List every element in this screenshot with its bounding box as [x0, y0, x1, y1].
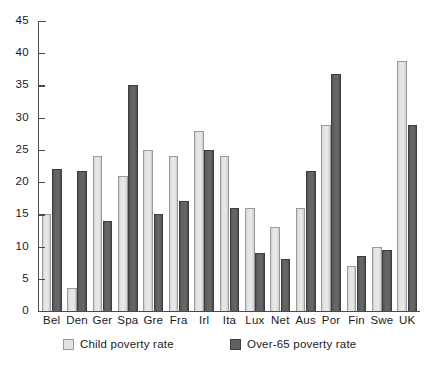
bar-over65-poverty: [179, 201, 189, 311]
x-tick-label-gre: Gre: [143, 314, 163, 327]
bar-group: [372, 21, 392, 311]
y-tick-label: 25: [16, 144, 29, 156]
bar-over65-poverty: [128, 85, 138, 311]
x-tick-label-fra: Fra: [170, 314, 188, 327]
bar-over65-poverty: [204, 150, 214, 311]
bar-group: [143, 21, 163, 311]
bar-group: [67, 21, 87, 311]
bar-child-poverty: [245, 208, 255, 311]
y-tick-mark: [39, 150, 45, 151]
bar-over65-poverty: [281, 259, 291, 311]
bar-child-poverty: [321, 125, 331, 311]
x-tick-label-irl: Irl: [199, 314, 209, 327]
y-tick-label: 15: [16, 209, 29, 221]
y-tick-mark: [39, 85, 45, 86]
y-tick-label: 45: [16, 15, 29, 27]
bar-child-poverty: [296, 208, 306, 311]
bar-over65-poverty: [52, 169, 62, 311]
y-tick-label: 35: [16, 80, 29, 92]
y-tick-mark: [39, 182, 45, 183]
bar-child-poverty: [143, 150, 153, 311]
plot-area: [39, 21, 420, 311]
bar-group: [220, 21, 240, 311]
x-tick-label-den: Den: [66, 314, 88, 327]
bar-over65-poverty: [103, 221, 113, 311]
x-tick-label-fin: Fin: [348, 314, 365, 327]
y-tick-label: 10: [16, 241, 29, 253]
bar-child-poverty: [220, 156, 230, 311]
bar-child-poverty: [93, 156, 103, 311]
x-tick-label-uk: UK: [399, 314, 415, 327]
x-tick-label-spa: Spa: [117, 314, 138, 327]
y-tick-label: 40: [16, 47, 29, 59]
x-tick-label-bel: Bel: [43, 314, 60, 327]
bar-over65-poverty: [154, 214, 164, 311]
x-tick-label-lux: Lux: [245, 314, 264, 327]
bar-group: [194, 21, 214, 311]
bar-child-poverty: [169, 156, 179, 311]
bar-over65-poverty: [230, 208, 240, 311]
y-tick-label: 0: [22, 305, 29, 317]
x-axis-line: [38, 311, 420, 312]
chart-legend: Child poverty rate Over-65 poverty rate: [0, 339, 425, 363]
bar-group: [270, 21, 290, 311]
bar-child-poverty: [270, 227, 280, 311]
bar-group: [347, 21, 367, 311]
x-tick-label-ita: Ita: [223, 314, 236, 327]
bar-over65-poverty: [306, 171, 316, 311]
y-tick-mark: [39, 214, 45, 215]
bar-group: [321, 21, 341, 311]
bar-group: [397, 21, 417, 311]
child-swatch-icon: [63, 339, 74, 350]
bar-child-poverty: [372, 247, 382, 311]
bar-chart: 051015202530354045 BelDenGerSpaGreFraIrl…: [0, 0, 425, 372]
y-tick-label: 20: [16, 176, 29, 188]
y-axis: 051015202530354045: [0, 0, 34, 330]
bar-over65-poverty: [331, 74, 341, 311]
bar-group: [118, 21, 138, 311]
y-tick-label: 5: [22, 273, 29, 285]
y-tick-mark: [39, 247, 45, 248]
x-tick-label-por: Por: [322, 314, 341, 327]
bar-over65-poverty: [357, 256, 367, 311]
bar-group: [93, 21, 113, 311]
y-tick-mark: [39, 279, 45, 280]
x-tick-label-swe: Swe: [370, 314, 393, 327]
over65-swatch-icon: [230, 339, 241, 350]
x-tick-label-aus: Aus: [295, 314, 315, 327]
bar-over65-poverty: [382, 250, 392, 311]
legend-label-child: Child poverty rate: [80, 339, 174, 351]
bar-group: [169, 21, 189, 311]
bar-group: [42, 21, 62, 311]
bar-over65-poverty: [408, 125, 418, 311]
bar-child-poverty: [397, 61, 407, 311]
plot-container: 051015202530354045 BelDenGerSpaGreFraIrl…: [0, 0, 425, 330]
y-tick-mark: [39, 118, 45, 119]
bar-child-poverty: [42, 214, 52, 311]
legend-item-over65: Over-65 poverty rate: [230, 339, 356, 351]
bar-over65-poverty: [77, 171, 87, 311]
y-tick-mark: [39, 53, 45, 54]
bar-child-poverty: [67, 288, 77, 311]
x-tick-label-net: Net: [271, 314, 290, 327]
bar-child-poverty: [194, 131, 204, 311]
y-tick-label: 30: [16, 112, 29, 124]
bar-over65-poverty: [255, 253, 265, 311]
legend-label-over65: Over-65 poverty rate: [247, 339, 356, 351]
bar-group: [296, 21, 316, 311]
bar-child-poverty: [347, 266, 357, 311]
y-tick-mark: [39, 21, 46, 22]
bar-child-poverty: [118, 176, 128, 311]
x-tick-label-ger: Ger: [93, 314, 113, 327]
legend-item-child: Child poverty rate: [63, 339, 174, 351]
x-axis: BelDenGerSpaGreFraIrlItaLuxNetAusPorFinS…: [39, 314, 420, 332]
bar-group: [245, 21, 265, 311]
